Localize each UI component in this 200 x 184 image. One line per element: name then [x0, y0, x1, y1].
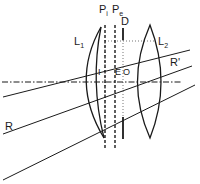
label-point-e: E	[115, 68, 121, 77]
label-l1: L1	[74, 36, 84, 49]
label-point-o: O	[123, 68, 130, 77]
label-ray-out: R'	[170, 57, 180, 68]
label-point-i: I	[98, 68, 101, 77]
label-d: D	[121, 16, 129, 27]
label-ray-in: R	[5, 121, 13, 132]
label-l2: L2	[158, 36, 168, 49]
optical-diagram	[0, 0, 200, 184]
label-pi: Pi	[99, 4, 108, 17]
